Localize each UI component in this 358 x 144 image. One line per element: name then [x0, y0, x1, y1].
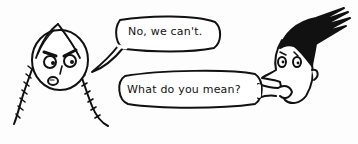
- speech-text-girl: No, we can't.: [128, 25, 202, 38]
- girl-character: [14, 24, 108, 126]
- speech-text-boy: What do you mean?: [127, 83, 241, 96]
- comic-panel: No, we can't. What do you mean?: [0, 0, 358, 144]
- comic-illustration: [0, 0, 358, 144]
